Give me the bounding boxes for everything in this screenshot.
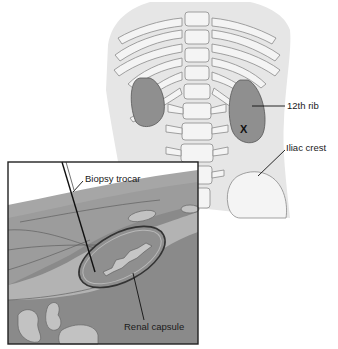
label-12th-rib: 12th rib [287,100,319,111]
inset-cross-section [8,162,199,344]
biopsy-site-marker: X [240,123,247,135]
diagram-canvas [0,0,338,349]
label-biopsy-trocar: Biopsy trocar [85,173,140,184]
label-iliac-crest: Iliac crest [286,142,326,153]
renal-biopsy-diagram: 12th rib Iliac crest X Biopsy trocar Ren… [0,0,338,349]
label-renal-capsule: Renal capsule [124,321,184,332]
